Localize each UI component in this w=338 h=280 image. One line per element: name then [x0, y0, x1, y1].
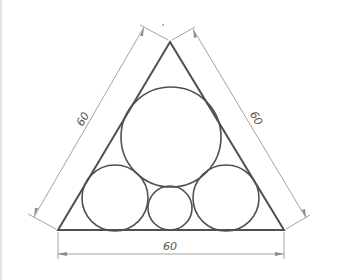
apex-mark	[162, 24, 164, 26]
right-circle	[193, 165, 259, 231]
small-center-circle	[148, 186, 192, 230]
left-circle	[82, 165, 148, 231]
bottom-dimension-label: 60	[163, 240, 177, 253]
left-dimension-label: 60	[74, 110, 92, 129]
right-dimension-label: 60	[247, 109, 265, 128]
triangle	[58, 42, 284, 230]
triangle-circles-diagram: 60 60 60	[0, 0, 338, 280]
left-dimension	[28, 25, 168, 229]
